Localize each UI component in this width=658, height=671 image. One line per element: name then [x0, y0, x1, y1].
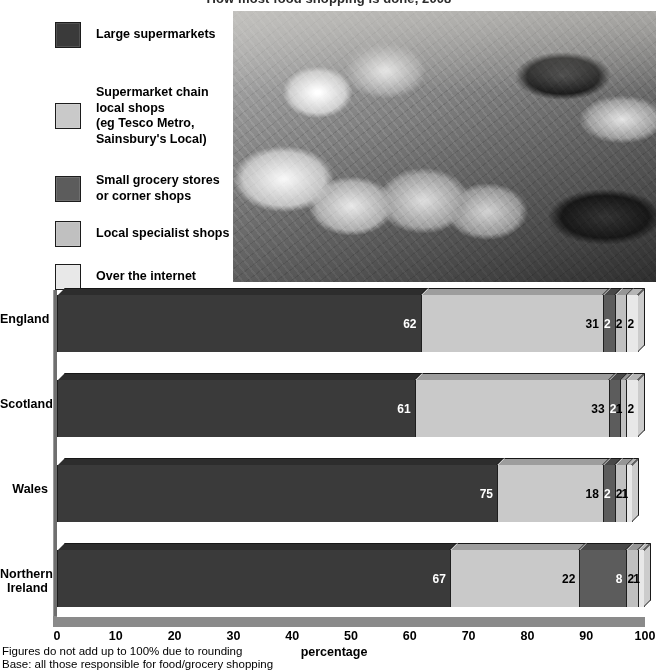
bar-segment: 62	[57, 295, 422, 352]
page-title: How most food shopping is done, 2008	[0, 0, 658, 6]
chart-floor-inner	[57, 613, 645, 618]
bar-segment-top-face	[580, 543, 633, 550]
bar-right-face	[638, 288, 645, 352]
x-tick-label: 40	[285, 629, 299, 643]
bar-value-label: 1	[616, 402, 627, 416]
bar-value-label: 18	[585, 487, 602, 501]
legend-item: Local specialist shops	[55, 221, 229, 247]
product-photo	[233, 11, 656, 282]
bar-value-label: 1	[622, 487, 633, 501]
bar-segment-top-face	[451, 543, 586, 550]
x-axis-ticks: 0102030405060708090100	[0, 629, 658, 645]
bar-value-label: 22	[562, 572, 579, 586]
legend-swatch-icon	[55, 221, 81, 247]
legend-swatch-icon	[55, 264, 81, 290]
x-tick-label: 90	[579, 629, 593, 643]
bar-value-label: 62	[403, 317, 420, 331]
bar-row: 6231222	[57, 288, 645, 352]
x-tick-label: 70	[462, 629, 476, 643]
legend-item: Over the internet	[55, 264, 196, 290]
legend-item-label: Small grocery stores or corner shops	[96, 173, 220, 204]
bar-value-label: 33	[591, 402, 608, 416]
stacked-bar: 6133212	[57, 380, 645, 437]
x-tick-label: 80	[520, 629, 534, 643]
bar-segment-top-face	[58, 458, 504, 465]
bar-value-label: 2	[627, 402, 638, 416]
bar-value-label: 8	[616, 572, 627, 586]
bar-segment: 2	[627, 380, 639, 437]
bar-segment: 31	[422, 295, 604, 352]
category-label: Northern Ireland	[0, 567, 48, 595]
bar-segment-top-face	[58, 373, 422, 380]
bar-value-label: 2	[616, 317, 627, 331]
bar-segment-top-face	[422, 288, 610, 295]
bar-segment: 75	[57, 465, 498, 522]
bar-segment: 2	[604, 465, 616, 522]
bar-segment: 8	[580, 550, 627, 607]
bar-value-label: 2	[604, 487, 615, 501]
bar-row: 6133212	[57, 373, 645, 437]
bar-segment-top-face	[58, 543, 457, 550]
bar-right-face	[638, 373, 645, 437]
x-tick-label: 0	[54, 629, 61, 643]
legend-swatch-icon	[55, 176, 81, 202]
x-tick-label: 60	[403, 629, 417, 643]
x-tick-label: 20	[168, 629, 182, 643]
category-label: Wales	[0, 482, 48, 496]
stacked-bar: 6231222	[57, 295, 645, 352]
x-tick-label: 10	[109, 629, 123, 643]
legend-item: Large supermarkets	[55, 22, 216, 48]
bar-value-label: 1	[633, 572, 644, 586]
category-label: England	[0, 312, 48, 326]
bar-chart: 6231222613321275182216722821 01020304050…	[0, 288, 658, 671]
bar-value-label: 75	[480, 487, 497, 501]
bar-segment-top-face	[416, 373, 616, 380]
bar-segment: 18	[498, 465, 604, 522]
footnote-line: Base: all those responsible for food/gro…	[2, 658, 273, 671]
bar-row: 6722821	[57, 543, 645, 607]
bar-segment-top-face	[498, 458, 610, 465]
bar-segment: 2	[627, 295, 639, 352]
bar-segment: 61	[57, 380, 416, 437]
legend-item: Supermarket chain local shops (eg Tesco …	[55, 85, 209, 147]
bar-segment: 1	[639, 550, 645, 607]
stacked-bar: 6722821	[57, 550, 645, 607]
bar-right-face	[632, 458, 639, 522]
bar-segment: 22	[451, 550, 580, 607]
bar-segment: 33	[416, 380, 610, 437]
bar-segment: 2	[616, 295, 628, 352]
bar-row: 7518221	[57, 458, 645, 522]
photo-layer-highlight	[233, 11, 656, 92]
legend-swatch-icon	[55, 22, 81, 48]
category-label: Scotland	[0, 397, 48, 411]
x-tick-label: 50	[344, 629, 358, 643]
bar-segment-top-face	[58, 288, 428, 295]
footnote-line: Figures do not add up to 100% due to rou…	[2, 645, 273, 658]
legend-swatch-icon	[55, 103, 81, 129]
x-tick-label: 30	[226, 629, 240, 643]
bar-value-label: 31	[585, 317, 602, 331]
bar-segment: 67	[57, 550, 451, 607]
bar-value-label: 2	[627, 317, 638, 331]
legend-item-label: Supermarket chain local shops (eg Tesco …	[96, 85, 209, 147]
bar-value-label: 61	[397, 402, 414, 416]
bar-value-label: 2	[604, 317, 615, 331]
legend-item-label: Large supermarkets	[96, 27, 216, 43]
legend-item-label: Over the internet	[96, 269, 196, 285]
footnotes: Figures do not add up to 100% due to rou…	[2, 645, 273, 671]
legend-item: Small grocery stores or corner shops	[55, 173, 220, 204]
stacked-bar: 7518221	[57, 465, 645, 522]
bar-segment: 2	[604, 295, 616, 352]
x-tick-label: 100	[635, 629, 656, 643]
bar-right-face	[644, 543, 651, 607]
bar-segment: 1	[627, 465, 633, 522]
legend-item-label: Local specialist shops	[96, 226, 229, 242]
bar-value-label: 67	[433, 572, 450, 586]
